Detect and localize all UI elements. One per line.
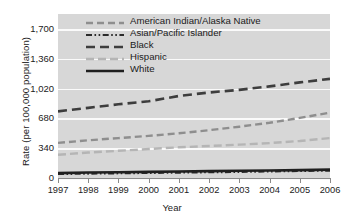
legend-item: American Indian/Alaska Native [86, 15, 336, 27]
legend-label: Hispanic [130, 51, 167, 63]
y-axis-tick-label: 0 [2, 173, 54, 183]
line-chart: Rate (per 100,000 population) 1,7001,360… [0, 0, 344, 224]
legend-item: Asian/Pacific Islander [86, 27, 336, 39]
x-axis-tick-mark [239, 178, 240, 183]
legend-swatch-icon [86, 63, 124, 75]
x-axis-tick-label: 2006 [313, 185, 344, 195]
legend-label: White [130, 63, 155, 75]
legend-swatch-icon [86, 27, 124, 39]
x-axis-tick-label: 2001 [162, 185, 196, 195]
x-axis-tick-mark [270, 178, 271, 183]
x-axis-tick-mark [179, 178, 180, 183]
x-axis-tick-mark [300, 178, 301, 183]
x-axis-tick-mark [149, 178, 150, 183]
legend-item: White [86, 63, 336, 75]
series-line [58, 79, 330, 111]
x-axis-tick-label: 1998 [71, 185, 105, 195]
series-line [58, 113, 330, 143]
x-axis-tick-label: 1999 [101, 185, 135, 195]
legend-swatch-icon [86, 39, 124, 51]
x-axis-tick-mark [209, 178, 210, 183]
series-line [58, 170, 330, 173]
legend-label: Asian/Pacific Islander [130, 27, 222, 39]
chart-legend: American Indian/Alaska NativeAsian/Pacif… [86, 15, 336, 75]
x-axis-tick-mark [118, 178, 119, 183]
x-axis-tick-label: 2004 [253, 185, 287, 195]
legend-swatch-icon [86, 51, 124, 63]
x-axis-tick-label: 2003 [222, 185, 256, 195]
x-axis-tick-label: 1997 [41, 185, 75, 195]
y-axis-tick-label: 1,020 [2, 84, 54, 94]
y-axis-tick-label: 1,700 [2, 24, 54, 34]
legend-swatch-icon [86, 15, 124, 27]
series-line [58, 138, 330, 155]
legend-item: Black [86, 39, 336, 51]
legend-label: Black [130, 39, 153, 51]
x-axis-title: Year [0, 202, 344, 213]
legend-item: Hispanic [86, 51, 336, 63]
x-axis-tick-mark [58, 178, 59, 183]
x-axis-tick-label: 2002 [192, 185, 226, 195]
x-axis-tick-label: 2000 [132, 185, 166, 195]
x-axis-tick-mark [88, 178, 89, 183]
x-axis-tick-mark [330, 178, 331, 183]
x-axis-tick-label: 2005 [283, 185, 317, 195]
x-axis-line [58, 178, 330, 179]
y-axis-tick-label: 340 [2, 143, 54, 153]
y-axis-tick-label: 680 [2, 113, 54, 123]
y-axis-tick-label: 1,360 [2, 54, 54, 64]
legend-label: American Indian/Alaska Native [130, 15, 261, 27]
